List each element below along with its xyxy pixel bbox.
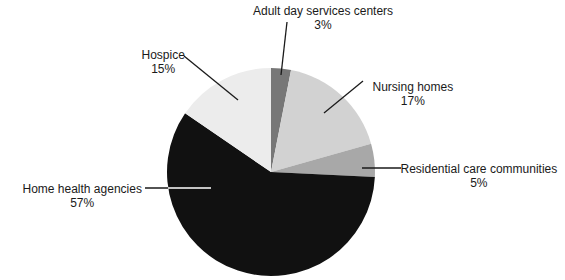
label-residential: Residential care communities5% xyxy=(401,162,558,190)
slice-label-text: Home health agencies xyxy=(23,182,142,196)
slice-label-text: Adult day services centers xyxy=(253,4,393,18)
label-home-health: Home health agencies57% xyxy=(23,182,142,210)
slice-percent-text: 5% xyxy=(401,176,558,190)
label-hospice: Hospice15% xyxy=(142,48,185,76)
label-nursing: Nursing homes17% xyxy=(373,80,454,108)
slice-percent-text: 57% xyxy=(23,196,142,210)
slice-label-text: Residential care communities xyxy=(401,162,558,176)
pie-slices xyxy=(167,68,375,276)
pie-chart xyxy=(0,0,565,280)
slice-label-text: Hospice xyxy=(142,48,185,62)
slice-percent-text: 17% xyxy=(373,94,454,108)
label-adult-day: Adult day services centers3% xyxy=(253,4,393,32)
slice-percent-text: 15% xyxy=(142,62,185,76)
slice-label-text: Nursing homes xyxy=(373,80,454,94)
slice-percent-text: 3% xyxy=(253,18,393,32)
